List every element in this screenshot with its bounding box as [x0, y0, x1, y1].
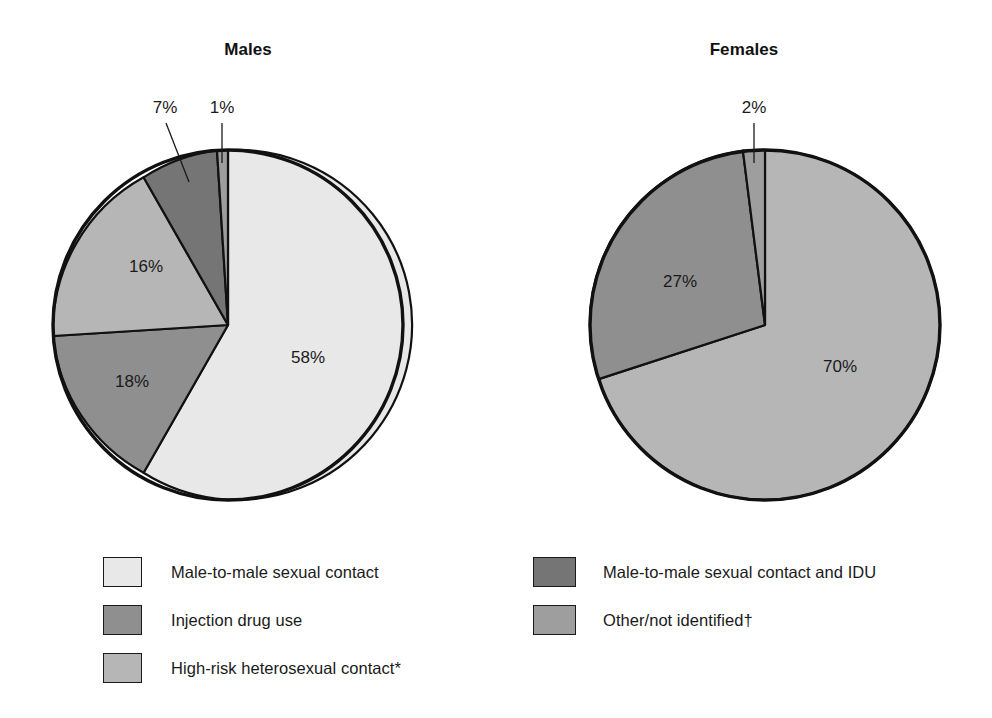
legend-item-male-to-male: Male-to-male sexual contact — [103, 548, 401, 596]
legend-swatch-injection-drug-use — [103, 605, 142, 635]
legend-swatch-male-to-male — [103, 557, 142, 587]
legend-item-injection-drug-use: Injection drug use — [103, 596, 401, 644]
pie-label-males-1: 1% — [210, 98, 235, 117]
pie-label-females-70: 70% — [823, 357, 857, 376]
legend-column-right: Male-to-male sexual contact and IDU Othe… — [533, 548, 876, 644]
legend-label-male-to-male: Male-to-male sexual contact — [171, 563, 379, 582]
legend-label-high-risk-heterosexual: High-risk heterosexual contact* — [171, 659, 401, 678]
pie-panel-males: Males 58% 18% 16% 7% 1% — [0, 0, 496, 540]
legend-label-injection-drug-use: Injection drug use — [171, 611, 302, 630]
figure-root: Males 58% 18% 16% 7% 1% — [0, 0, 992, 718]
legend-swatch-male-to-male-and-idu — [533, 557, 576, 587]
pie-label-males-18: 18% — [115, 372, 149, 391]
pie-label-females-2: 2% — [742, 98, 767, 117]
legend-label-male-to-male-and-idu: Male-to-male sexual contact and IDU — [603, 563, 876, 582]
legend: Male-to-male sexual contact Injection dr… — [0, 548, 992, 718]
pie-label-males-16: 16% — [129, 257, 163, 276]
pie-label-males-7: 7% — [153, 98, 178, 117]
pie-label-females-27: 27% — [663, 272, 697, 291]
pie-label-males-58: 58% — [291, 348, 325, 367]
pie-chart-females: 70% 27% 2% — [496, 0, 992, 540]
legend-swatch-high-risk-heterosexual — [103, 653, 142, 683]
legend-item-male-to-male-and-idu: Male-to-male sexual contact and IDU — [533, 548, 876, 596]
legend-item-other-not-identified: Other/not identified† — [533, 596, 876, 644]
legend-item-high-risk-heterosexual: High-risk heterosexual contact* — [103, 644, 401, 692]
legend-label-other-not-identified: Other/not identified† — [603, 611, 753, 630]
pie-chart-males: 58% 18% 16% 7% 1% — [0, 0, 496, 540]
legend-swatch-other-not-identified — [533, 605, 576, 635]
legend-column-left: Male-to-male sexual contact Injection dr… — [103, 548, 401, 692]
pie-panel-females: Females 70% 27% 2% — [496, 0, 992, 540]
